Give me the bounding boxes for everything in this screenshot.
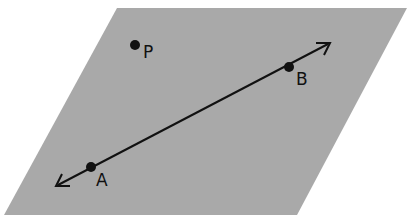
- plane-diagram: P B A: [0, 0, 413, 222]
- point-b-label: B: [296, 69, 308, 89]
- point-a-dot: [86, 162, 96, 172]
- diagram-canvas: P B A: [0, 0, 413, 222]
- point-b-dot: [284, 62, 294, 72]
- point-a-label: A: [96, 170, 108, 190]
- point-p-dot: [130, 40, 140, 50]
- point-p-label: P: [143, 42, 153, 62]
- plane-parallelogram: [4, 8, 407, 215]
